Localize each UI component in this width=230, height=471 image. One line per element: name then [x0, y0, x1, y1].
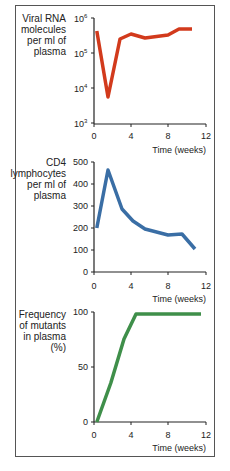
y-ticks: 100 50 0 [73, 307, 94, 427]
y-ticks: 500 400 300 200 100 0 [73, 157, 94, 277]
svg-text:CD4: CD4 [46, 157, 66, 168]
mutants-line [97, 314, 201, 422]
svg-text:of mutants: of mutants [19, 320, 66, 331]
svg-text:8: 8 [165, 430, 170, 440]
viral-rna-chart: Viral RNA molecules per ml of plasma 106… [21, 13, 211, 155]
svg-text:500: 500 [73, 157, 88, 167]
y-label: Viral RNA molecules per ml of plasma [21, 13, 66, 57]
svg-text:plasma: plasma [34, 46, 67, 57]
x-axis-label: Time (weeks) [152, 145, 206, 155]
figure: Viral RNA molecules per ml of plasma 106… [0, 0, 230, 471]
y-label: CD4 lymphocytes per ml of plasma [10, 157, 66, 201]
viral-rna-line [97, 29, 192, 97]
svg-text:0: 0 [91, 281, 96, 291]
svg-text:12: 12 [201, 131, 211, 141]
svg-text:0: 0 [91, 430, 96, 440]
svg-text:104: 104 [74, 83, 88, 94]
svg-text:100: 100 [73, 307, 88, 317]
svg-text:300: 300 [73, 201, 88, 211]
svg-text:per ml of: per ml of [27, 179, 66, 190]
y-ticks: 106 105 104 103 [74, 13, 94, 129]
svg-text:plasma: plasma [34, 190, 67, 201]
svg-text:103: 103 [74, 118, 88, 129]
svg-text:4: 4 [128, 131, 133, 141]
svg-text:200: 200 [73, 223, 88, 233]
svg-text:Frequency: Frequency [19, 309, 66, 320]
x-axis-label: Time (weeks) [152, 294, 206, 304]
svg-text:100: 100 [73, 245, 88, 255]
x-ticks: 0 4 8 12 [91, 272, 211, 291]
x-ticks: 0 4 8 12 [91, 124, 211, 141]
svg-text:4: 4 [128, 430, 133, 440]
svg-text:lymphocytes: lymphocytes [10, 168, 66, 179]
svg-text:molecules: molecules [21, 24, 66, 35]
y-label: Frequency of mutants in plasma (%) [19, 309, 67, 353]
svg-text:0: 0 [83, 417, 88, 427]
mutants-chart: Frequency of mutants in plasma (%) 100 5… [19, 307, 211, 453]
svg-text:105: 105 [74, 48, 88, 59]
x-axis-label: Time (weeks) [152, 443, 206, 453]
cd4-chart: CD4 lymphocytes per ml of plasma 500 400… [10, 157, 211, 304]
x-ticks: 0 4 8 12 [91, 422, 211, 440]
svg-text:12: 12 [201, 281, 211, 291]
svg-text:106: 106 [74, 13, 88, 24]
svg-text:4: 4 [128, 281, 133, 291]
svg-text:8: 8 [165, 131, 170, 141]
svg-text:Viral RNA: Viral RNA [22, 13, 66, 24]
svg-text:(%): (%) [50, 342, 66, 353]
svg-text:0: 0 [91, 131, 96, 141]
svg-text:0: 0 [83, 267, 88, 277]
svg-text:400: 400 [73, 179, 88, 189]
cd4-line [97, 170, 195, 249]
svg-text:per ml of: per ml of [27, 35, 66, 46]
svg-text:in plasma: in plasma [23, 331, 66, 342]
svg-text:8: 8 [165, 281, 170, 291]
svg-text:12: 12 [201, 430, 211, 440]
svg-text:50: 50 [78, 362, 88, 372]
